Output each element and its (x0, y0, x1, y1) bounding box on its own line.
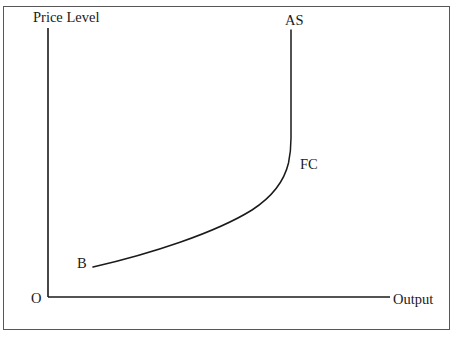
origin-label: O (31, 291, 41, 306)
figure-border (3, 6, 450, 330)
b-point-label: B (77, 256, 87, 271)
as-curve-label: AS (285, 13, 304, 28)
y-axis-label: Price Level (33, 10, 99, 25)
fc-point-label: FC (300, 157, 318, 172)
figure-root: Figure Price Level Output O AS FC B (0, 0, 456, 338)
x-axis-label: Output (393, 292, 433, 307)
